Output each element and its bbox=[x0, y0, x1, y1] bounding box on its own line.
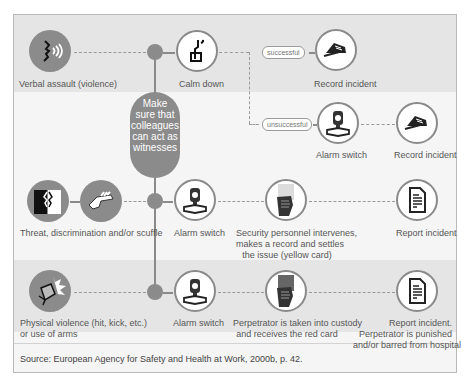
alarm-switch-icon bbox=[174, 179, 216, 221]
witness-note-text: Make sure that colleagues can act as wit… bbox=[128, 98, 182, 153]
dashed-connector bbox=[219, 52, 249, 53]
label-alarm-switch: Alarm switch bbox=[316, 150, 367, 161]
dashed-connector bbox=[309, 292, 395, 293]
connector bbox=[309, 52, 315, 54]
dashed-connector bbox=[249, 124, 259, 125]
connector bbox=[163, 292, 173, 294]
label-record-incident: Record incident bbox=[314, 79, 377, 90]
label-perpetrator-custody: Perpetrator is taken into custody and re… bbox=[233, 318, 341, 340]
grabbing-hand-icon bbox=[80, 180, 122, 222]
dashed-connector bbox=[361, 124, 395, 125]
label-physical-violence: Physical violence (hit, kick, etc.) or u… bbox=[20, 318, 147, 340]
writing-hand-icon bbox=[396, 102, 438, 144]
label-report-punished: Report incident. Perpetrator is punished… bbox=[353, 318, 452, 351]
alarm-switch-icon bbox=[317, 102, 359, 144]
connector bbox=[163, 201, 173, 203]
successful-pill: successful bbox=[262, 46, 305, 59]
junction-node bbox=[147, 284, 163, 300]
dashed-connector bbox=[218, 292, 264, 293]
label-threat: Threat, discrimination and/or scuffle bbox=[20, 228, 162, 239]
label-security-intervenes: Security personnel intervenes, makes a r… bbox=[236, 228, 338, 261]
calm-person-icon bbox=[176, 30, 218, 72]
dashed-connector bbox=[74, 292, 146, 293]
label-report-incident: Report incident bbox=[396, 228, 457, 239]
arguing-faces-icon bbox=[27, 180, 69, 222]
label-alarm-switch: Alarm switch bbox=[173, 318, 224, 329]
red-card-hand-icon bbox=[265, 270, 307, 312]
fist-impact-icon bbox=[29, 270, 71, 312]
connector bbox=[70, 201, 80, 203]
writing-hand-icon bbox=[315, 29, 357, 71]
dashed-connector bbox=[124, 201, 146, 202]
alarm-switch-icon bbox=[174, 270, 216, 312]
speaking-face-icon bbox=[29, 30, 71, 72]
unsuccessful-pill: unsuccessful bbox=[262, 118, 312, 131]
label-alarm-switch: Alarm switch bbox=[174, 228, 225, 239]
report-document-icon bbox=[396, 270, 438, 312]
dashed-connector bbox=[74, 52, 146, 53]
dashed-connector bbox=[218, 201, 264, 202]
yellow-card-hand-icon bbox=[265, 179, 307, 221]
label-verbal-assault: Verbal assault (violence) bbox=[19, 79, 117, 90]
connector bbox=[163, 52, 175, 54]
junction-node bbox=[147, 193, 163, 209]
report-document-icon bbox=[396, 179, 438, 221]
label-record-incident-2: Record incident bbox=[394, 150, 457, 161]
source-caption: Source: European Agency for Safety and H… bbox=[20, 354, 303, 364]
branch-connector bbox=[249, 52, 250, 124]
dashed-connector bbox=[309, 201, 395, 202]
junction-node bbox=[147, 44, 163, 60]
label-calm-down: Calm down bbox=[179, 79, 224, 90]
